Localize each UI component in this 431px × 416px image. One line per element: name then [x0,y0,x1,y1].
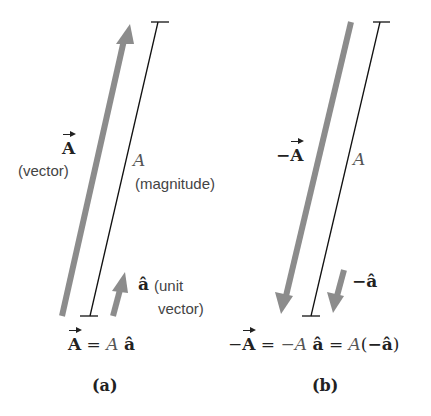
negative-unit-vector-symbol: −â [352,273,377,290]
magnitude-symbol-b: A [353,151,365,168]
negative-vector-arrow [275,22,351,314]
equation-b-unit: â [312,334,323,354]
negative-vector-symbol: A [290,147,303,164]
unit-note-line2: vector) [158,301,204,316]
equation-b-neg-scalar: −A [281,334,308,354]
negative-sign: − [276,145,290,165]
caption-a: (a) [92,378,118,394]
equation-a-unit: â [124,334,135,354]
equation-a-lhs: A [68,336,81,353]
equation-b-neg: − [228,334,242,354]
equation-a: A = A â [68,336,135,353]
equation-b-scalar: A [349,334,361,354]
magnitude-symbol-a: A [133,152,145,169]
negative-unit-vector-arrow [327,270,344,313]
equation-b-equals-1: = [261,334,275,354]
unit-vector-symbol-a: â [138,276,149,293]
caption-b: (b) [312,378,338,394]
vector-note: (vector) [18,163,69,178]
vector-a-label: A [62,140,75,157]
equation-a-scalar: A [106,334,118,354]
unit-vector-a-arrow [112,272,128,316]
magnitude-note: (magnitude) [135,176,215,191]
negative-vector-label: −A [276,147,303,164]
equation-a-equals: = [87,334,101,354]
unit-note-line1: (unit [154,278,183,293]
equation-b-lhs: A [242,336,255,353]
equation-b: −A = −A â = A(−â) [228,336,399,353]
equation-b-paren-close: ) [393,334,400,354]
equation-b-equals-2: = [329,334,343,354]
equation-b-neg-unit: −â [367,334,392,354]
